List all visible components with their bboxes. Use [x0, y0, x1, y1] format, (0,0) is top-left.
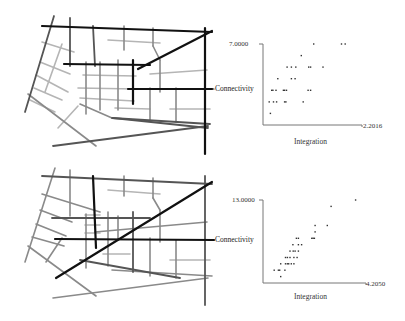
scatter-point	[295, 66, 296, 67]
x-axis-max-label: 2.2016	[363, 122, 382, 130]
scatter-point	[355, 199, 356, 200]
scatter-point	[310, 66, 311, 67]
scatter-point	[293, 250, 294, 251]
scatter-point	[298, 250, 299, 251]
scatter-point	[286, 90, 287, 91]
panel-top: Connectivity 7.0000 2.2016 Integration	[0, 0, 405, 160]
scatter-points	[274, 199, 357, 277]
scatter-point	[272, 90, 273, 91]
scatter-point	[298, 244, 299, 245]
panel-bottom: Connectivity 13.0000 4.2050 Integration	[0, 160, 405, 321]
scatter-point	[330, 206, 331, 207]
connectivity-label: Connectivity	[215, 84, 254, 93]
scatter-point	[313, 43, 314, 44]
scatter-point	[269, 101, 270, 102]
scatter-point	[289, 257, 290, 258]
scatter-point	[312, 238, 313, 239]
scatter-points	[269, 43, 346, 114]
scatter-point	[294, 78, 295, 79]
scatter-point	[341, 43, 342, 44]
scatter-point	[294, 250, 295, 251]
scatter-point	[322, 66, 323, 67]
axial-map-top	[0, 0, 240, 160]
connectivity-label: Connectivity	[215, 235, 254, 244]
scatter-point	[291, 66, 292, 67]
axial-map-bottom	[0, 160, 240, 321]
scatter-point	[277, 78, 278, 79]
scatter-point	[284, 101, 285, 102]
scatter-point	[278, 270, 279, 271]
scatter-point	[280, 263, 281, 264]
x-axis-max-label: 4.2050	[366, 280, 385, 288]
scatter-point	[287, 263, 288, 264]
scatter-point	[271, 90, 272, 91]
scatter-point	[274, 270, 275, 271]
scatter-point	[293, 257, 294, 258]
scatter-point	[298, 238, 299, 239]
scatter-point	[296, 238, 297, 239]
scatter-point	[283, 90, 284, 91]
scatter-point	[308, 66, 309, 67]
scatter-point	[285, 101, 286, 102]
axial-lines-light	[30, 40, 210, 128]
scatter-point	[301, 244, 302, 245]
scatter-point	[293, 263, 294, 264]
scatter-point	[311, 238, 312, 239]
scatter-point	[284, 90, 285, 91]
axial-lines-mid	[25, 168, 212, 298]
scatter-point	[314, 238, 315, 239]
scatter-point	[314, 231, 315, 232]
scatter-point	[280, 276, 281, 277]
scatter-point	[301, 55, 302, 56]
axial-lines-black	[42, 26, 212, 154]
scatter-point	[303, 101, 304, 102]
x-axis-title: Integration	[294, 292, 327, 301]
scatter-point	[276, 101, 277, 102]
scatter-point	[310, 90, 311, 91]
scatter-point	[289, 250, 290, 251]
x-axis-title: Integration	[294, 137, 327, 146]
scatter-point	[285, 263, 286, 264]
scatter-axes	[259, 44, 362, 127]
scatter-point	[275, 90, 276, 91]
scatter-point	[288, 263, 289, 264]
scatter-point	[284, 270, 285, 271]
scatter-point	[345, 43, 346, 44]
scatter-point	[291, 78, 292, 79]
scatter-point	[291, 263, 292, 264]
scatter-point	[286, 66, 287, 67]
scatter-point	[296, 257, 297, 258]
y-axis-max-label: 13.0000	[232, 196, 255, 204]
scatter-point	[327, 225, 328, 226]
scatter-axes	[259, 200, 366, 285]
scatter-point	[273, 101, 274, 102]
y-axis-max-label: 7.0000	[229, 40, 248, 48]
scatter-point	[307, 90, 308, 91]
scatter-point	[314, 225, 315, 226]
scatter-point	[287, 257, 288, 258]
scatter-point	[279, 270, 280, 271]
scatter-point	[285, 257, 286, 258]
scatter-point	[270, 113, 271, 114]
scatter-plot-top	[255, 38, 405, 148]
scatter-point	[292, 244, 293, 245]
